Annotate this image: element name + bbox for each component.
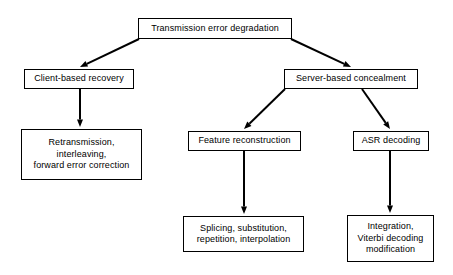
- node-label-client-based-recovery: Client-based recovery: [30, 73, 128, 85]
- node-label-transmission-error-degradation: Transmission error degradation: [147, 23, 283, 35]
- edge-server-to-asr: [362, 89, 390, 129]
- node-integration-viterbi-decoding-modification[interactable]: Integration, Viterbi decoding modificati…: [347, 215, 434, 262]
- node-label-server-based-concealment: Server-based concealment: [292, 73, 410, 85]
- edge-client-to-retransmission-arrowhead: [77, 120, 83, 128]
- edge-asr-to-integration-arrowhead: [387, 206, 393, 214]
- edge-root-to-server-arrowhead: [343, 61, 351, 67]
- node-splicing-substitution-repetition-interpolation[interactable]: Splicing, substitution, repetition, inte…: [183, 216, 304, 252]
- edge-root-to-server-line: [291, 39, 344, 64]
- node-label-retransmission-interleaving-fec: Retransmission, interleaving, forward er…: [30, 137, 134, 172]
- node-server-based-concealment[interactable]: Server-based concealment: [284, 69, 418, 89]
- edge-feature-to-splicing: [241, 151, 247, 214]
- node-label-asr-decoding: ASR decoding: [358, 135, 425, 147]
- edge-root-to-client-line: [87, 39, 139, 64]
- edge-asr-to-integration: [387, 151, 393, 213]
- edge-root-to-client-arrowhead: [80, 61, 88, 67]
- edge-server-to-asr-arrowhead: [383, 121, 390, 129]
- flowchart-canvas: Transmission error degradationClient-bas…: [0, 0, 453, 275]
- node-label-feature-reconstruction: Feature reconstruction: [194, 135, 294, 147]
- edge-root-to-server: [291, 39, 351, 67]
- edge-server-to-asr-line: [362, 89, 386, 123]
- edge-server-to-feature: [244, 89, 285, 129]
- edge-server-to-feature-line: [249, 89, 285, 124]
- node-asr-decoding[interactable]: ASR decoding: [353, 131, 429, 151]
- node-label-splicing-substitution-repetition-interpolation: Splicing, substitution, repetition, inte…: [193, 223, 295, 246]
- node-transmission-error-degradation[interactable]: Transmission error degradation: [138, 18, 292, 39]
- node-client-based-recovery[interactable]: Client-based recovery: [24, 69, 134, 89]
- node-label-integration-viterbi-decoding-modification: Integration, Viterbi decoding modificati…: [354, 221, 428, 256]
- edge-client-to-retransmission: [77, 89, 83, 127]
- edge-feature-to-splicing-arrowhead: [241, 207, 247, 215]
- edge-root-to-client: [80, 39, 139, 67]
- node-retransmission-interleaving-fec[interactable]: Retransmission, interleaving, forward er…: [21, 129, 142, 180]
- node-feature-reconstruction[interactable]: Feature reconstruction: [188, 131, 301, 151]
- edge-server-to-feature-arrowhead: [244, 122, 251, 129]
